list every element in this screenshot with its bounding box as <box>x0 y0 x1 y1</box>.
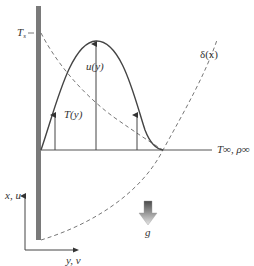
boundary-layer-diagram: Ts u(y) T(y) δ(x) T∞, ρ∞ g x, u y, v <box>0 0 254 266</box>
surface-temperature-label: Ts <box>17 26 26 40</box>
freestream-label: T∞, ρ∞ <box>217 143 250 155</box>
velocity-profile-label: u(y) <box>86 60 104 73</box>
heated-wall <box>36 6 41 240</box>
temperature-profile-label: T(y) <box>64 108 83 121</box>
boundary-layer-thickness-label: δ(x) <box>200 48 218 61</box>
vertical-axis-label: x, u <box>4 189 21 201</box>
temperature-profile-curve <box>41 33 163 150</box>
boundary-layer-thickness-curve <box>41 40 217 240</box>
horizontal-axis-arrowhead <box>73 248 79 253</box>
velocity-profile-curve <box>41 41 163 150</box>
horizontal-axis-label: y, v <box>65 254 81 266</box>
gravity-label: g <box>145 226 151 238</box>
gravity-arrow-icon <box>139 201 157 225</box>
